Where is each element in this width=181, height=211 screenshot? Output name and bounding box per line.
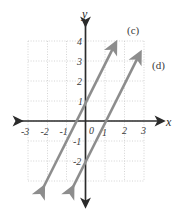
x-tick-label-two: 2 (122, 126, 127, 136)
series-label-d: (d) (152, 60, 165, 71)
y-tick-label-one: 1 (78, 97, 83, 107)
y-axis-label: y (82, 8, 87, 20)
series-line-c (42, 47, 114, 191)
y-tick-label-neg1: -1 (73, 137, 81, 147)
x-tick-label-one: 1 (102, 128, 107, 138)
plot-canvas (0, 0, 181, 211)
series-label-c: (c) (127, 25, 139, 36)
y-tick-label-three: 3 (77, 57, 82, 67)
coordinate-plane-figure: -3 -2 -1 0 1 2 3 4 3 2 1 -1 -2 x y (c) (… (0, 0, 181, 211)
y-tick-label-four: 4 (77, 37, 82, 47)
x-tick-label-neg1: -1 (60, 127, 68, 137)
x-tick-label-neg3: -3 (21, 127, 29, 137)
y-tick-label-two: 2 (77, 77, 82, 87)
y-tick-label-neg2: -2 (73, 157, 81, 167)
x-axis-label: x (166, 116, 171, 128)
x-tick-label-three: 3 (141, 126, 146, 136)
x-tick-label-zero: 0 (89, 126, 94, 136)
x-tick-label-neg2: -2 (41, 127, 49, 137)
